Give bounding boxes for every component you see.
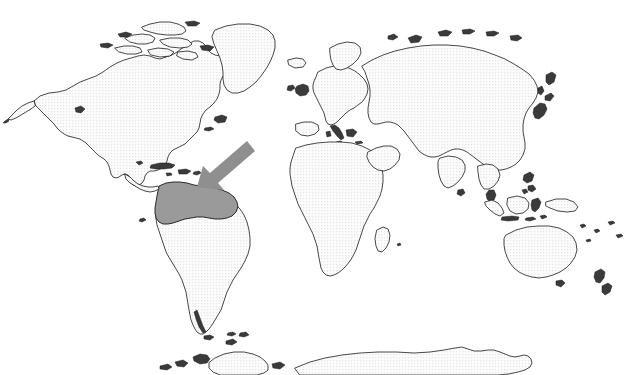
world-map-svg [0,0,631,375]
world-map-figure [0,0,631,375]
